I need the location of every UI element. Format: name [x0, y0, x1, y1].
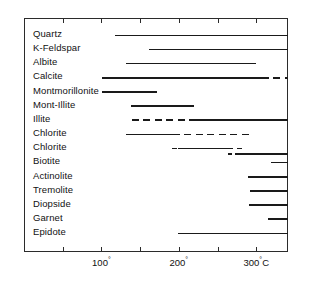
bar-biotite-9-solid-0 — [271, 162, 288, 164]
bar-mont-illite-5-solid-0 — [131, 105, 194, 107]
bar-calcite-3-dash-1 — [273, 77, 280, 79]
bar-diopside-12-solid-0 — [249, 204, 288, 206]
bar-chlorite-7-dash-0 — [173, 134, 180, 136]
row-label-chlorite-8: Chlorite — [33, 141, 67, 153]
x-axis-labels: 100°200°300°C — [0, 256, 310, 276]
row-label-chlorite-7: Chlorite — [33, 127, 67, 139]
chart-row: Biotite — [24, 155, 288, 169]
row-label-quartz-0: Quartz — [33, 28, 62, 40]
bar-illite-6-dash-1 — [143, 119, 150, 121]
row-label-biotite-9: Biotite — [33, 155, 60, 167]
row-label-epidote-14: Epidote — [33, 226, 66, 238]
bar-chlorite-7-dash-2 — [196, 134, 203, 136]
row-label-garnet-13: Garnet — [33, 212, 63, 224]
x-axis-tick-label-300: 300°C — [243, 256, 269, 268]
bar-illite-6-dash-3 — [166, 119, 173, 121]
bar-actinolite-10-solid-0 — [248, 176, 288, 178]
bar-montmorillonite-4-solid-0 — [102, 91, 157, 93]
x-axis-tick-label-100: 100° — [92, 256, 111, 268]
bar-epidote-14-solid-0 — [178, 233, 288, 235]
bar-chlorite-8-sub0-solid-2 — [237, 148, 242, 150]
row-label-mont-illite-5: Mont-Illite — [33, 99, 75, 111]
bar-chlorite-8-sub0-solid-1 — [178, 148, 233, 150]
bar-illite-6-dash-2 — [155, 119, 162, 121]
row-label-tremolite-11: Tremolite — [33, 184, 73, 196]
bar-illite-6-dash-0 — [132, 119, 139, 121]
chart-row: Garnet — [24, 212, 288, 226]
chart-rows: QuartzK-FeldsparAlbiteCalciteMontmorillo… — [24, 18, 288, 252]
bar-chlorite-7-dash-6 — [242, 134, 249, 136]
row-label-montmorillonite-4: Montmorillonite — [33, 85, 99, 97]
row-label-illite-6: Illite — [33, 113, 51, 125]
row-label-calcite-3: Calcite — [33, 70, 63, 82]
bar-illite-6-dash-4 — [178, 119, 185, 121]
bar-calcite-3-dash-2 — [285, 77, 288, 79]
row-label-diopside-12: Diopside — [33, 198, 71, 210]
bar-calcite-3-solid-0 — [102, 77, 261, 79]
bar-chlorite-7-dash-5 — [230, 134, 237, 136]
bar-chlorite-7-dash-4 — [219, 134, 226, 136]
bar-calcite-3-dash-0 — [262, 77, 269, 79]
bar-illite-6-solid-1 — [190, 119, 288, 121]
bar-chlorite-7-solid-0 — [126, 134, 172, 136]
chart-row: Tremolite — [24, 184, 288, 198]
row-label-actinolite-10: Actinolite — [33, 170, 73, 182]
bar-tremolite-11-solid-0 — [250, 190, 288, 192]
bar-chlorite-7-dash-3 — [207, 134, 214, 136]
bar-k-feldspar-1-solid-0 — [149, 49, 288, 51]
x-axis-tick-label-200: 200° — [169, 256, 188, 268]
bar-albite-2-solid-0 — [126, 63, 256, 65]
bar-chlorite-8-sub0-solid-0 — [172, 148, 177, 150]
bar-garnet-13-solid-0 — [268, 218, 288, 220]
bar-quartz-0-solid-0 — [115, 35, 288, 37]
row-label-albite-2: Albite — [33, 56, 57, 68]
row-label-k-feldspar-1: K-Feldspar — [33, 42, 80, 54]
chart-figure: QuartzK-FeldsparAlbiteCalciteMontmorillo… — [0, 0, 310, 285]
bar-chlorite-7-dash-1 — [184, 134, 191, 136]
